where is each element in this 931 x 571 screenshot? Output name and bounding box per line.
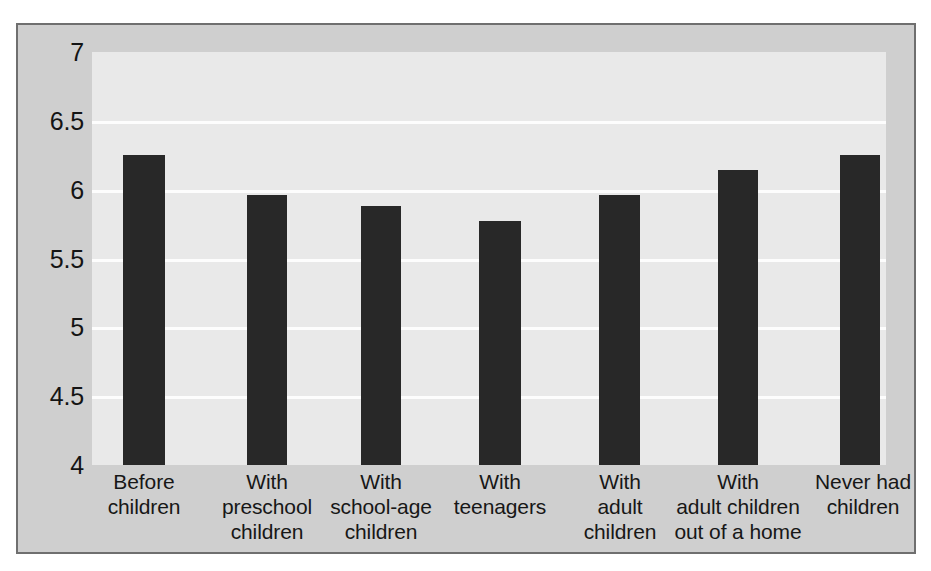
- plot-area: [92, 52, 886, 465]
- bar-with-preschool-children: [247, 195, 287, 465]
- x-axis-labels: Before children With preschool children …: [92, 469, 886, 553]
- y-tick-label: 5: [28, 315, 84, 340]
- y-tick-label: 6.5: [28, 108, 84, 133]
- bar-before-children: [123, 155, 165, 465]
- gridline: [92, 121, 886, 124]
- chart-frame: 7 6.5 6 5.5 5 4.5 4 Before childr: [16, 23, 916, 554]
- x-tick-label-line: children: [80, 494, 208, 519]
- bar-with-school-age-children: [361, 206, 401, 465]
- x-tick-label-line: Before: [80, 469, 208, 494]
- bar-never-had-children: [840, 155, 880, 465]
- gridline: [92, 190, 886, 193]
- x-tick-label-line: children: [799, 494, 927, 519]
- y-tick-label: 5.5: [28, 246, 84, 271]
- x-tick-label-line: teenagers: [436, 494, 564, 519]
- bar-with-teenagers: [479, 221, 521, 465]
- y-tick-label: 4: [28, 453, 84, 478]
- y-tick-label: 6: [28, 177, 84, 202]
- bar-with-adult-children-out-of-home: [718, 170, 758, 465]
- x-tick-label-line: preschool: [203, 494, 331, 519]
- x-tick-label-line: out of a home: [652, 519, 824, 544]
- x-tick-label-line: children: [317, 519, 445, 544]
- x-tick-label-with-school-age-children: With school-age children: [317, 469, 445, 544]
- x-tick-label-line: Never had: [799, 469, 927, 494]
- y-tick-label: 7: [28, 40, 84, 65]
- x-tick-label-before-children: Before children: [80, 469, 208, 519]
- x-tick-label-line: children: [203, 519, 331, 544]
- x-tick-label-line: school-age: [317, 494, 445, 519]
- x-tick-label-line: With: [317, 469, 445, 494]
- figure: 7 6.5 6 5.5 5 4.5 4 Before childr: [0, 0, 931, 571]
- y-axis: 7 6.5 6 5.5 5 4.5 4: [18, 52, 84, 465]
- y-tick-label: 4.5: [28, 384, 84, 409]
- x-tick-label-line: With: [203, 469, 331, 494]
- bar-with-adult-children: [599, 195, 640, 465]
- x-tick-label-line: With: [436, 469, 564, 494]
- x-tick-label-with-teenagers: With teenagers: [436, 469, 564, 519]
- x-tick-label-never-had-children: Never had children: [799, 469, 927, 519]
- x-tick-label-with-preschool-children: With preschool children: [203, 469, 331, 544]
